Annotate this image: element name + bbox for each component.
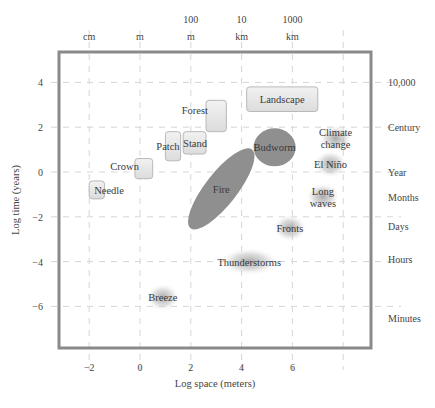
label: Climate bbox=[319, 127, 353, 138]
label: Forest bbox=[182, 105, 208, 116]
label: Landscape bbox=[260, 94, 305, 105]
label: change bbox=[321, 139, 351, 150]
y-tick-label: 2 bbox=[38, 122, 43, 133]
y-tick-label: 4 bbox=[38, 77, 43, 88]
atmosphere-thunderstorms: Thunderstorms bbox=[217, 248, 281, 276]
vegetation-landscape: Landscape bbox=[247, 87, 318, 112]
top-tick-unit: m bbox=[187, 31, 195, 42]
label: Needle bbox=[94, 185, 124, 196]
label: waves bbox=[310, 198, 336, 209]
x-tick-label: 0 bbox=[138, 362, 143, 373]
top-tick-value: 100 bbox=[183, 14, 198, 25]
x-tick-label: −2 bbox=[84, 362, 95, 373]
right-tick-label: Century bbox=[388, 122, 420, 133]
right-tick-label: 10,000 bbox=[388, 77, 416, 88]
disturbance-budworm: Budworm bbox=[254, 128, 296, 166]
y-tick-label: −4 bbox=[32, 257, 43, 268]
x-tick-label: 4 bbox=[239, 362, 244, 373]
label: Breeze bbox=[148, 292, 177, 303]
atmosphere-fronts: Fronts bbox=[273, 214, 307, 242]
vegetation-crown: Crown bbox=[110, 159, 152, 179]
label: Budworm bbox=[254, 142, 296, 153]
label: Stand bbox=[183, 138, 208, 149]
y-tick-label: −6 bbox=[32, 301, 43, 312]
x-tick-label: 6 bbox=[290, 362, 295, 373]
right-tick-label: Year bbox=[388, 167, 407, 178]
atmosphere-el-niño: El Niño bbox=[314, 150, 348, 178]
label: Patch bbox=[156, 141, 180, 152]
right-tick-label: Hours bbox=[388, 254, 413, 265]
vegetation-stand: Stand bbox=[183, 132, 208, 154]
label: El Niño bbox=[314, 159, 347, 170]
x-tick-label: 2 bbox=[188, 362, 193, 373]
top-tick-unit: m bbox=[136, 31, 144, 42]
top-tick-unit: km bbox=[286, 31, 299, 42]
label: Thunderstorms bbox=[217, 257, 281, 268]
label: Fire bbox=[213, 184, 230, 195]
atmosphere-long-waves: Longwaves bbox=[306, 183, 340, 211]
top-tick-unit: km bbox=[235, 31, 248, 42]
atmosphere-climate-change: Climatechange bbox=[319, 124, 353, 152]
vegetation-patch: Patch bbox=[156, 132, 180, 161]
y-tick-label: 0 bbox=[38, 167, 43, 178]
label: Fronts bbox=[276, 223, 303, 234]
top-tick-unit: cm bbox=[83, 31, 95, 42]
scale-diagram-chart: NeedleCrownPatchStandForestLandscape Cli… bbox=[0, 0, 435, 408]
label: Crown bbox=[110, 161, 139, 172]
right-tick-label: Months bbox=[388, 192, 419, 203]
right-tick-label: Days bbox=[388, 221, 409, 232]
atmosphere-breeze: Breeze bbox=[146, 283, 180, 311]
vegetation-needle: Needle bbox=[89, 181, 124, 199]
top-tick-value: 10 bbox=[237, 14, 247, 25]
top-tick-value: 1000 bbox=[282, 14, 302, 25]
right-tick-label: Minutes bbox=[388, 313, 421, 324]
label: Long bbox=[312, 186, 335, 197]
y-axis-label: Log time (years) bbox=[10, 165, 22, 235]
y-tick-label: −2 bbox=[32, 212, 43, 223]
x-axis-label: Log space (meters) bbox=[175, 378, 256, 390]
